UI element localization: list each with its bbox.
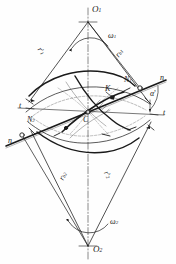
profile-root-stub-left — [54, 133, 60, 136]
label-tangent-left: t — [19, 102, 21, 110]
label-normal-left: n — [8, 137, 12, 145]
profile-2-tip-stub — [122, 88, 130, 92]
label-pressure-angle: α' — [150, 90, 156, 98]
profile-root-stub-right — [102, 134, 110, 136]
label-omega1-sub: 1 — [114, 34, 116, 39]
aux-point-marker — [64, 126, 67, 129]
label-k: K — [105, 85, 110, 93]
upper-sector-left-edge — [29, 22, 88, 102]
point-n2-marker — [20, 133, 24, 137]
lower-base-arc — [33, 116, 145, 136]
label-o1-sub: 1 — [99, 7, 102, 13]
arc-arrow-upper-left — [31, 99, 35, 102]
label-c: C — [83, 116, 88, 124]
label-alpha-prime: ' — [154, 89, 155, 98]
diagram-canvas — [0, 0, 176, 264]
profile-1-tip-stub — [128, 127, 136, 130]
gear-meshing-diagram: O1 ω1 r'1 rb1 N1 n K α' t t N2 C n rb2 r… — [0, 0, 176, 264]
label-tangent-right: t — [163, 109, 165, 117]
label-n2-sub: 2 — [32, 118, 34, 123]
lower-sector-left-edge — [31, 131, 88, 246]
omega1-arc — [72, 38, 108, 48]
label-omega2-sub: 2 — [116, 220, 118, 225]
label-o2-sub: 2 — [100, 247, 103, 253]
point-n1-marker — [138, 86, 142, 90]
label-omega1: ω1 — [108, 32, 116, 40]
label-omega2: ω2 — [110, 218, 118, 226]
label-o2: O2 — [93, 245, 102, 254]
label-n2: N2 — [27, 116, 35, 124]
label-normal-right: n — [160, 74, 164, 82]
lower-sector-right-edge — [88, 122, 151, 246]
label-n1: N1 — [124, 76, 132, 84]
label-n1-sub: 1 — [129, 78, 131, 83]
label-o1: O1 — [92, 5, 101, 14]
upper-outer-arc — [29, 71, 135, 96]
